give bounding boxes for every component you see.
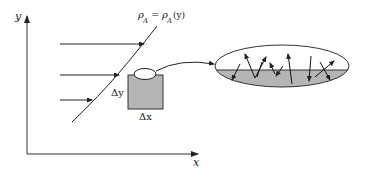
magnify-connector: [156, 62, 214, 71]
magnified-view: [215, 45, 349, 87]
equals-sign: =: [151, 9, 159, 20]
element-box: [128, 75, 163, 109]
rho-a-y-subscript: A: [166, 17, 172, 25]
delta-x-label: Δx: [139, 111, 152, 122]
control-element: Δy Δx: [111, 69, 163, 123]
axes: y x: [14, 10, 200, 169]
surface-sample-ellipse: [134, 69, 156, 80]
curve-label: ρ A = ρ A (y): [137, 9, 185, 25]
rho-a-subscript: A: [142, 17, 148, 25]
delta-y-label: Δy: [111, 87, 124, 98]
mass-transfer-diagram: y x ρ A = ρ A (y) Δy Δx: [0, 0, 365, 172]
x-axis-label: x: [193, 156, 200, 169]
y-axis-label: y: [14, 10, 22, 23]
rho-a-y-argument: (y): [173, 10, 185, 20]
